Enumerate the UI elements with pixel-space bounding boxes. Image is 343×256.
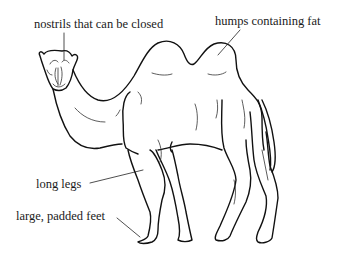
camel-rear-legs <box>215 100 278 243</box>
label-long-legs: long legs <box>36 178 81 191</box>
leader-feet <box>117 218 140 237</box>
camel-diagram: nostrils that can be closed humps contai… <box>0 0 343 256</box>
camel-body <box>53 41 264 154</box>
leader-legs <box>90 170 143 183</box>
label-nostrils: nostrils that can be closed <box>34 18 163 31</box>
camel-head <box>39 50 77 90</box>
label-humps: humps containing fat <box>215 15 321 28</box>
label-padded-feet: large, padded feet <box>16 210 105 223</box>
camel-body-details <box>75 72 226 130</box>
camel-front-legs <box>128 140 192 244</box>
